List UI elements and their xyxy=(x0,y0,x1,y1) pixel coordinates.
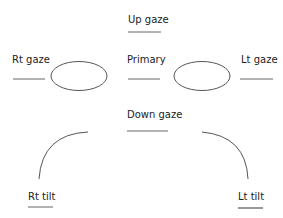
lt-tilt-label: Lt tilt xyxy=(238,191,264,203)
lt-gaze-label: Lt gaze xyxy=(241,54,278,66)
primary-label: Primary xyxy=(127,54,166,66)
rt-gaze-label: Rt gaze xyxy=(12,54,50,66)
left-eye-ellipse xyxy=(174,62,230,91)
right-head-arc xyxy=(39,132,88,179)
down-gaze-label: Down gaze xyxy=(127,109,182,121)
up-gaze-label: Up gaze xyxy=(128,14,169,26)
left-head-arc xyxy=(202,132,248,179)
rt-tilt-label: Rt tilt xyxy=(28,191,55,203)
right-eye-ellipse xyxy=(51,62,107,91)
